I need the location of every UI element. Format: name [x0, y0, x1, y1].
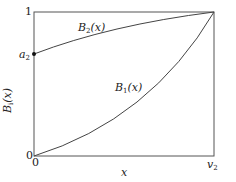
a2-point-marker: [32, 52, 36, 56]
y-axis-label: Bi(x): [2, 88, 15, 113]
curve-b2: [34, 12, 214, 54]
y-tick-a2: a2: [19, 49, 30, 62]
x-tick-v2: v2: [207, 159, 218, 172]
y-tick-1: 1: [25, 6, 32, 17]
x-axis-label: x: [121, 167, 127, 178]
b2-curve-label: B2(x): [78, 22, 105, 35]
x-tick-0: 0: [32, 157, 39, 168]
b1-curve-label: B1(x): [115, 82, 142, 95]
